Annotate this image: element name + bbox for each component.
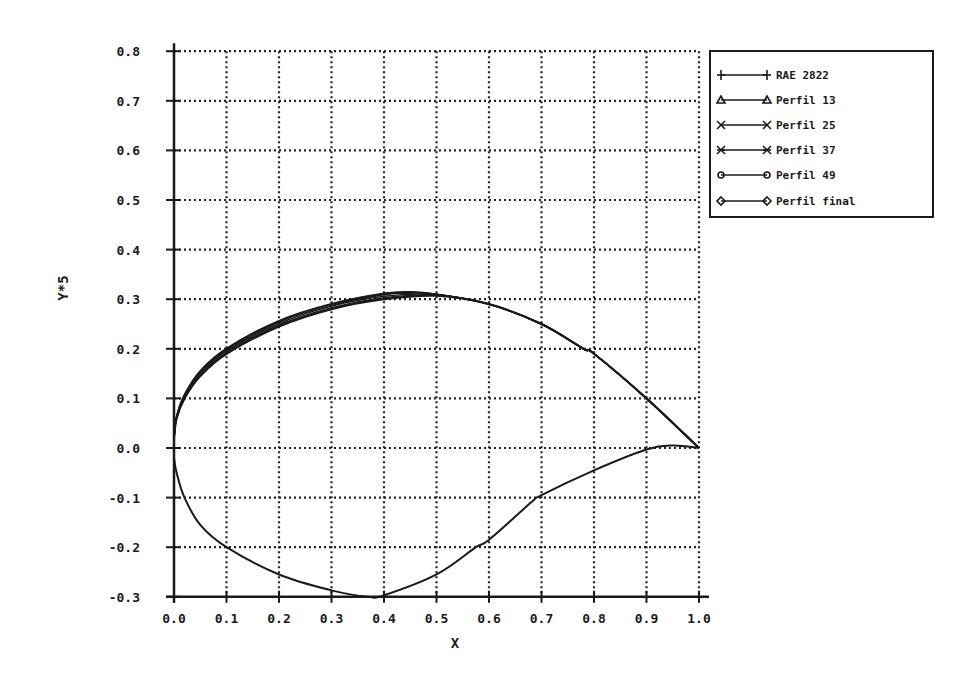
- y-tick-label: 0.5: [117, 193, 140, 208]
- series-curve-perfil-49: [174, 292, 699, 448]
- x-tick-label: 1.0: [687, 611, 711, 626]
- legend-label: RAE 2822: [776, 69, 829, 82]
- legend-label: Perfil final: [776, 195, 855, 208]
- legend-label: Perfil 13: [776, 94, 836, 107]
- y-tick-label: -0.3: [109, 590, 140, 605]
- x-tick-label: 0.3: [320, 611, 343, 626]
- x-tick-label: 0.8: [582, 611, 606, 626]
- y-tick-label: 0.2: [117, 342, 140, 357]
- y-tick-label: 0.8: [117, 44, 141, 59]
- chart: 0.00.10.20.30.40.50.60.70.80.91.00.80.70…: [0, 0, 979, 674]
- y-tick-label: 0.6: [117, 143, 141, 158]
- y-tick-label: 0.4: [117, 243, 141, 258]
- y-tick-label: 0.7: [117, 94, 140, 109]
- y-tick-label: -0.1: [109, 491, 140, 506]
- x-tick-label: 0.1: [215, 611, 239, 626]
- y-tick-label: 0.3: [117, 292, 140, 307]
- x-tick-label: 0.6: [477, 611, 501, 626]
- legend-label: Perfil 37: [776, 144, 836, 157]
- series-curve-perfil-final: [174, 292, 699, 448]
- x-axis-title: X: [451, 635, 460, 651]
- x-tick-label: 0.0: [162, 611, 186, 626]
- plot-area: 0.00.10.20.30.40.50.60.70.80.91.00.80.70…: [0, 0, 979, 674]
- legend-label: Perfil 49: [776, 169, 836, 182]
- legend: RAE 2822Perfil 13Perfil 25Perfil 37Perfi…: [710, 51, 933, 217]
- tick-labels: 0.00.10.20.30.40.50.60.70.80.91.00.80.70…: [109, 44, 711, 626]
- x-tick-label: 0.7: [530, 611, 553, 626]
- y-tick-label: 0.0: [117, 441, 141, 456]
- x-tick-label: 0.4: [372, 611, 396, 626]
- legend-label: Perfil 25: [776, 119, 836, 132]
- y-tick-label: 0.1: [117, 391, 141, 406]
- x-tick-label: 0.2: [267, 611, 290, 626]
- grid-lines: [174, 51, 699, 597]
- y-tick-label: -0.2: [109, 540, 140, 555]
- x-tick-label: 0.5: [425, 611, 448, 626]
- x-tick-label: 0.9: [635, 611, 658, 626]
- y-axis-title: Y*5: [55, 275, 71, 300]
